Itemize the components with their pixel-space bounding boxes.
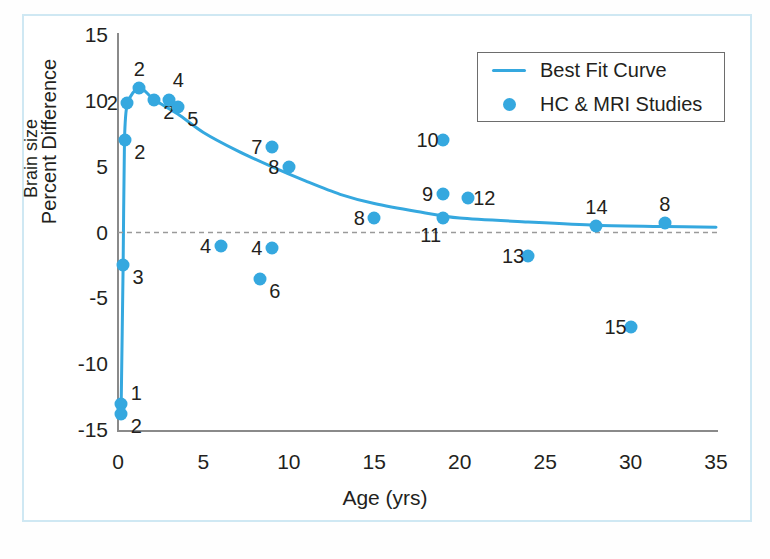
dot-swatch-icon	[478, 98, 540, 111]
data-point-label: 11	[420, 224, 441, 247]
data-point-label: 8	[268, 155, 279, 178]
data-point[interactable]	[282, 160, 295, 173]
line-swatch-icon	[478, 69, 540, 72]
data-point-label: 8	[659, 193, 670, 216]
legend: Best Fit Curve HC & MRI Studies	[477, 52, 725, 122]
data-point-label: 7	[251, 135, 262, 158]
x-tick-label: 15	[349, 450, 399, 474]
data-point[interactable]	[658, 217, 671, 230]
data-point-label: 8	[354, 207, 365, 230]
data-point-label: 1	[131, 381, 142, 404]
x-tick-label: 10	[264, 450, 314, 474]
legend-entry-best-fit-curve[interactable]: Best Fit Curve	[478, 53, 724, 88]
data-point-label: 2	[134, 141, 145, 164]
y-tick-label: -15	[48, 418, 108, 442]
legend-label: Best Fit Curve	[540, 59, 667, 82]
data-point-label: 13	[502, 245, 524, 268]
data-point-label: 14	[585, 195, 607, 218]
data-point-label: 6	[269, 279, 280, 302]
data-point-label: 4	[251, 237, 262, 260]
legend-label: HC & MRI Studies	[540, 93, 702, 116]
data-point-label: 5	[187, 108, 198, 131]
data-point[interactable]	[171, 101, 184, 114]
data-point-label: 4	[173, 68, 184, 91]
data-point-label: 2	[131, 415, 142, 438]
y-axis-label-secondary: Brain size	[21, 119, 42, 198]
x-tick-label: 20	[435, 450, 485, 474]
x-tick-label: 25	[520, 450, 570, 474]
data-point[interactable]	[253, 272, 266, 285]
data-point[interactable]	[121, 97, 134, 110]
data-point-label: 12	[473, 187, 495, 210]
data-point[interactable]	[265, 242, 278, 255]
data-point[interactable]	[368, 212, 381, 225]
data-point-label: 2	[134, 57, 145, 80]
y-tick-label: -10	[48, 352, 108, 376]
data-point-label: 9	[422, 183, 433, 206]
x-tick-label: 30	[606, 450, 656, 474]
data-point[interactable]	[436, 188, 449, 201]
x-axis-line	[117, 430, 718, 432]
figure-container: 12322224544678810912111314158 151050-5-1…	[0, 0, 770, 559]
data-point[interactable]	[133, 81, 146, 94]
data-point[interactable]	[590, 219, 603, 232]
x-axis-label: Age (yrs)	[0, 486, 770, 510]
data-point[interactable]	[265, 140, 278, 153]
data-point-label: 3	[133, 266, 144, 289]
y-tick-label: 15	[48, 23, 108, 47]
data-point[interactable]	[115, 408, 128, 421]
data-point-label: 10	[417, 129, 439, 152]
data-point-label: 4	[200, 234, 211, 257]
x-tick-label: 0	[93, 450, 143, 474]
data-point[interactable]	[147, 93, 160, 106]
y-tick-label: -5	[48, 286, 108, 310]
data-point[interactable]	[118, 134, 131, 147]
data-point[interactable]	[117, 259, 130, 272]
data-point-label: 2	[107, 92, 118, 115]
x-tick-label: 5	[178, 450, 228, 474]
data-point[interactable]	[214, 239, 227, 252]
data-point-label: 15	[604, 316, 626, 339]
legend-entry-hc-mri-studies[interactable]: HC & MRI Studies	[478, 87, 724, 122]
x-tick-label: 35	[691, 450, 741, 474]
